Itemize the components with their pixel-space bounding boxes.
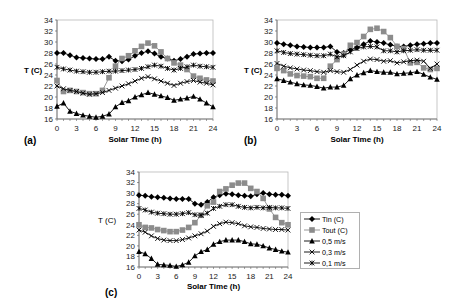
svg-text:30: 30: [44, 38, 53, 47]
svg-text:32: 32: [126, 178, 135, 187]
svg-text:22: 22: [44, 82, 53, 91]
svg-text:18: 18: [393, 124, 402, 133]
x-marker-icon: [303, 248, 321, 256]
svg-text:21: 21: [189, 124, 198, 133]
legend-item-03: 0,3 m/s: [303, 247, 346, 257]
diamond-marker-icon: [303, 215, 321, 223]
svg-text:0: 0: [275, 124, 280, 133]
svg-text:22: 22: [264, 82, 273, 91]
svg-text:24: 24: [284, 272, 293, 281]
svg-text:28: 28: [264, 49, 273, 58]
svg-text:26: 26: [126, 210, 135, 219]
svg-text:9: 9: [193, 272, 198, 281]
legend-label-05: 0,5 m/s: [322, 237, 346, 246]
chart-c-svg: 1618202224262830323403691215182124T (C)S…: [80, 155, 300, 305]
svg-text:15: 15: [373, 124, 382, 133]
star-marker-icon: [303, 259, 321, 267]
legend-label-03: 0,3 m/s: [322, 248, 346, 257]
svg-text:12: 12: [209, 272, 218, 281]
svg-text:9: 9: [335, 124, 340, 133]
svg-text:0: 0: [55, 124, 60, 133]
svg-text:18: 18: [126, 252, 135, 261]
svg-text:34: 34: [44, 16, 53, 25]
svg-text:Solar Time (h): Solar Time (h): [330, 135, 384, 144]
svg-text:22: 22: [126, 231, 135, 240]
svg-text:T (C): T (C): [98, 216, 116, 225]
triangle-marker-icon: [303, 237, 321, 245]
svg-text:18: 18: [170, 124, 179, 133]
chart-panel-a: 1618202224262830323403691215182124T (C)S…: [0, 0, 225, 150]
svg-text:12: 12: [353, 124, 362, 133]
panel-label-a: (a): [24, 135, 36, 146]
svg-text:26: 26: [264, 60, 273, 69]
svg-text:15: 15: [150, 124, 159, 133]
svg-text:16: 16: [126, 263, 135, 272]
chart-b-svg: 1618202224262830323403691215182124T (C)S…: [226, 0, 451, 150]
svg-text:26: 26: [44, 60, 53, 69]
legend-item-tout: Tout (C): [303, 225, 348, 235]
legend-label-tout: Tout (C): [322, 226, 348, 235]
svg-text:9: 9: [113, 124, 118, 133]
svg-text:20: 20: [264, 93, 273, 102]
svg-text:16: 16: [264, 115, 273, 124]
svg-text:6: 6: [174, 272, 179, 281]
svg-text:3: 3: [74, 124, 79, 133]
svg-text:32: 32: [264, 27, 273, 36]
svg-text:Solar Time (h): Solar Time (h): [187, 282, 241, 291]
svg-text:28: 28: [44, 49, 53, 58]
svg-text:24: 24: [44, 71, 53, 80]
chart-legend: Tin (C) Tout (C) 0,5 m/s 0,3 m/s 0,1 m/s: [300, 212, 360, 269]
svg-text:28: 28: [126, 199, 135, 208]
svg-text:16: 16: [44, 115, 53, 124]
svg-text:30: 30: [126, 189, 135, 198]
panel-label-b: (b): [244, 135, 257, 146]
legend-item-05: 0,5 m/s: [303, 236, 346, 246]
svg-text:6: 6: [315, 124, 320, 133]
svg-text:21: 21: [413, 124, 422, 133]
svg-text:12: 12: [131, 124, 140, 133]
svg-text:34: 34: [264, 16, 273, 25]
svg-text:24: 24: [264, 71, 273, 80]
legend-label-01: 0,1 m/s: [322, 259, 346, 268]
chart-panel-b: 1618202224262830323403691215182124T (C)S…: [226, 0, 451, 150]
chart-panel-c: 1618202224262830323403691215182124T (C)S…: [80, 155, 300, 305]
svg-text:18: 18: [246, 272, 255, 281]
svg-text:20: 20: [44, 93, 53, 102]
svg-text:24: 24: [209, 124, 218, 133]
svg-text:18: 18: [264, 104, 273, 113]
chart-a-svg: 1618202224262830323403691215182124T (C)S…: [0, 0, 225, 150]
panel-label-c: (c): [105, 287, 117, 298]
svg-text:T (C): T (C): [244, 66, 263, 75]
svg-text:32: 32: [44, 27, 53, 36]
svg-text:30: 30: [264, 38, 273, 47]
svg-text:0: 0: [137, 272, 142, 281]
legend-label-tin: Tin (C): [322, 215, 344, 224]
svg-text:20: 20: [126, 242, 135, 251]
legend-item-01: 0,1 m/s: [303, 258, 346, 268]
svg-text:15: 15: [228, 272, 237, 281]
svg-text:18: 18: [44, 104, 53, 113]
svg-text:3: 3: [155, 272, 160, 281]
svg-text:24: 24: [433, 124, 442, 133]
svg-text:T (C): T (C): [24, 66, 43, 75]
svg-text:21: 21: [265, 272, 274, 281]
square-marker-icon: [303, 226, 321, 234]
svg-text:24: 24: [126, 221, 135, 230]
svg-text:6: 6: [94, 124, 99, 133]
svg-text:Solar Time (h): Solar Time (h): [108, 135, 162, 144]
legend-item-tin: Tin (C): [303, 214, 344, 224]
svg-text:3: 3: [295, 124, 300, 133]
svg-text:34: 34: [126, 168, 135, 177]
